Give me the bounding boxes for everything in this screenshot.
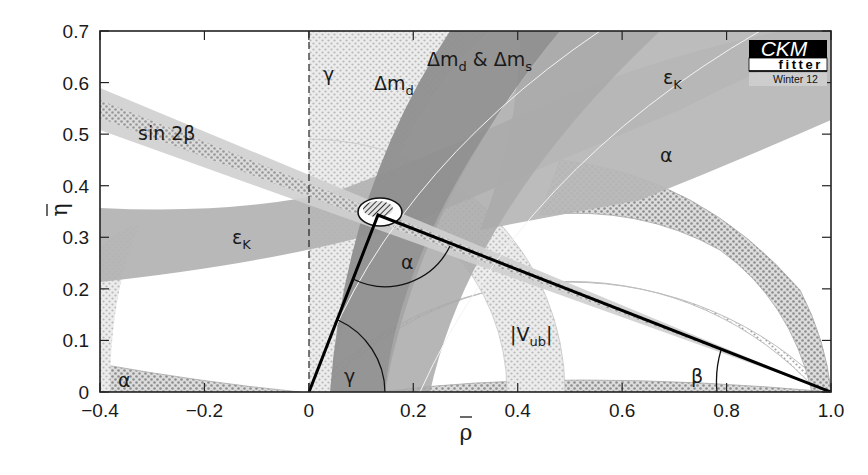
x-tick-label: 0.2: [400, 400, 426, 421]
x-tick-label: 0: [304, 400, 315, 421]
ckmfitter-logo: CKM fitter Winter 12: [749, 37, 827, 86]
x-tick-label: 0.4: [505, 400, 532, 421]
y-tick-label: 0.3: [63, 227, 89, 248]
x-tick-label: −0.2: [186, 400, 224, 421]
beta-angle-label: β: [691, 365, 703, 387]
x-tick-label: 0.6: [609, 400, 635, 421]
x-axis-title: ρ: [460, 420, 473, 445]
y-tick-label: 0.6: [63, 73, 89, 94]
y-tick-label: 0.2: [63, 279, 89, 300]
alpha-band-label: α: [660, 144, 673, 166]
alpha-constraint-band-bottom-right: [380, 380, 831, 392]
ckm-unitarity-triangle-chart: sin 2β εK εK γ Δmd Δmd & Δms α α |Vub| α…: [0, 0, 868, 475]
y-tick-label: 0: [78, 382, 89, 403]
sin2beta-label: sin 2β: [138, 122, 195, 144]
y-tick-label: 0.5: [63, 124, 89, 145]
y-tick-label: 0.7: [63, 21, 89, 42]
gamma-band-label: γ: [323, 63, 334, 85]
plot-area: [100, 31, 831, 392]
x-tick-label: 0.8: [713, 400, 739, 421]
x-tick-label: −0.4: [81, 400, 119, 421]
y-tick-label: 0.4: [63, 176, 90, 197]
gamma-angle-label: γ: [344, 365, 355, 387]
y-tick-label: 0.1: [63, 330, 89, 351]
x-tick-label: 1.0: [818, 400, 844, 421]
logo-fitter-text: fitter: [779, 57, 824, 72]
alpha-left-label: α: [118, 369, 131, 391]
y-axis-title: η: [47, 203, 72, 216]
alpha-angle-label: α: [401, 251, 414, 273]
logo-season-text: Winter 12: [773, 73, 818, 85]
